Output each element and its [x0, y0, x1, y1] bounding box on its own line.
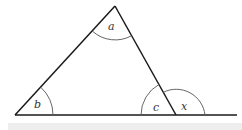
angle-arc-b — [41, 87, 53, 115]
angle-label-x: x — [181, 100, 188, 113]
triangle-diagram: a b c x — [0, 0, 242, 130]
angle-label-b: b — [34, 98, 41, 111]
angle-label-a: a — [108, 20, 115, 33]
footer-band — [8, 123, 242, 130]
side-left — [15, 6, 115, 115]
angle-label-c: c — [153, 101, 159, 114]
